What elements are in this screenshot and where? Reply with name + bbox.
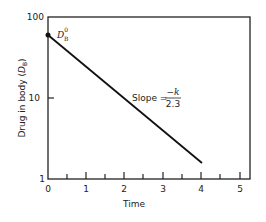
x-tick-4: 4 [198, 184, 204, 194]
y-tick-1: 1 [39, 174, 45, 184]
y-tick-100: 100 [27, 12, 44, 22]
y-axis-title: Drug in body (DB) [17, 58, 28, 137]
y-tick-10: 10 [29, 93, 41, 103]
start-point-label: D0B [56, 26, 69, 42]
slope-numerator: −k [167, 87, 180, 97]
x-tick-5: 5 [237, 184, 243, 194]
x-axis-title: Time [122, 199, 145, 209]
x-tick-0: 0 [45, 184, 51, 194]
x-tick-2: 2 [121, 184, 127, 194]
start-point-marker [46, 33, 51, 38]
slope-label: Slope = [132, 93, 167, 103]
x-tick-3: 3 [160, 184, 166, 194]
x-tick-1: 1 [83, 184, 89, 194]
slope-denominator: 2.3 [166, 99, 180, 109]
x-ticks [67, 172, 240, 179]
chart: 100 10 1 0 1 2 3 4 5 Time Drug in body (… [0, 0, 266, 222]
